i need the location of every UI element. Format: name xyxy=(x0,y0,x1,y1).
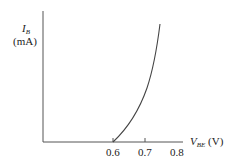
ib-vbe-curve xyxy=(113,24,160,142)
x-axis-label: VBE (V) xyxy=(190,136,223,149)
x-tick-label-0.6: 0.6 xyxy=(106,147,120,158)
x-tick-label-0.8: 0.8 xyxy=(170,147,184,158)
y-axis-unit: (mA) xyxy=(13,36,37,47)
x-tick-label-0.7: 0.7 xyxy=(138,147,152,158)
